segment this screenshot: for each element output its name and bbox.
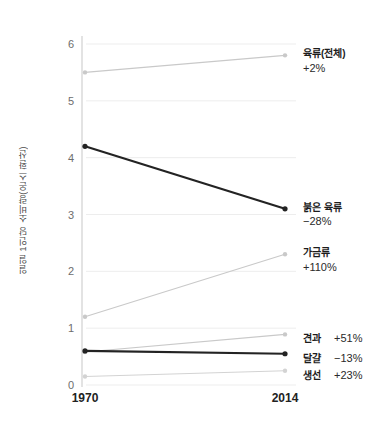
series-change-5: +23% xyxy=(334,369,362,383)
series-annotation-2: 가금류+110% xyxy=(303,247,337,274)
series-change-0: +2% xyxy=(303,62,346,76)
series-annotation-5: 생선+23% xyxy=(303,364,362,384)
series-change-3: +51% xyxy=(334,332,362,346)
series-change-2: +110% xyxy=(303,261,337,275)
series-annotation-3: 견과+51% xyxy=(303,327,362,347)
series-name-5: 생선 xyxy=(303,370,329,383)
series-name-2: 가금류 xyxy=(303,247,337,260)
series-annotations: 육류(전체)+2%붉은 육류−28%가금류+110%견과+51%달걀−13%생선… xyxy=(0,0,387,423)
series-name-0: 육류(전체) xyxy=(303,48,346,61)
series-change-1: −28% xyxy=(303,215,342,229)
series-name-3: 견과 xyxy=(303,333,329,346)
series-annotation-0: 육류(전체)+2% xyxy=(303,48,346,75)
series-name-1: 붉은 육류 xyxy=(303,202,342,215)
line-chart: 일일 1인당 소비량(온스 환산) 0123456 19702014 육류(전체… xyxy=(0,0,387,423)
series-annotation-1: 붉은 육류−28% xyxy=(303,202,342,229)
